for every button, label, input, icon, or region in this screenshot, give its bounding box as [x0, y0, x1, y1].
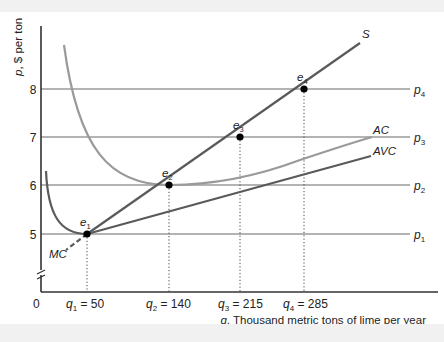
- y-axis-title: p, $ per ton: [12, 18, 24, 77]
- equilibrium-labels: e1 e2 e3 e4: [80, 71, 308, 231]
- x-tick-labels: q1 = 50 q2 = 140 q3 = 215 q4 = 285: [66, 297, 328, 313]
- x-tick-q1: q1 = 50: [66, 297, 104, 313]
- y-tick-labels: 8 7 6 5: [30, 83, 37, 242]
- label-s: S: [362, 28, 370, 40]
- y-tick-5: 5: [30, 228, 37, 242]
- label-mc: MC: [49, 248, 68, 260]
- x-tick-q3: q3 = 215: [218, 297, 263, 313]
- label-ac: AC: [372, 124, 390, 136]
- equilibrium-points: [83, 85, 307, 237]
- label-p2: p2: [413, 179, 426, 195]
- axis-break-icon: [37, 270, 45, 279]
- point-e4: [300, 85, 307, 92]
- supply-curve: [87, 43, 360, 234]
- quantity-drop-lines: [87, 89, 304, 292]
- point-e3: [236, 133, 243, 140]
- mc-dashed-extension: [66, 234, 87, 250]
- axes: [41, 26, 438, 292]
- chart-panel: 8 7 6 5 p, $ per ton 0 q1 = 50 q2 = 140 …: [0, 12, 444, 324]
- label-avc: AVC: [372, 145, 397, 157]
- label-p4: p4: [413, 83, 426, 99]
- y-axis-title-rest: , $ per ton: [12, 18, 24, 70]
- label-e1: e1: [80, 216, 91, 231]
- x-tick-q2: q2 = 140: [146, 297, 191, 313]
- point-e2: [165, 181, 172, 188]
- x-axis-title: q, Thousand metric tons of lime per year: [220, 314, 426, 324]
- point-e1: [83, 230, 90, 237]
- x-origin-label: 0: [33, 297, 40, 311]
- label-p3: p3: [413, 131, 426, 147]
- y-tick-6: 6: [30, 179, 37, 193]
- y-tick-8: 8: [30, 83, 37, 97]
- label-p1: p1: [413, 228, 426, 244]
- chart-svg: 8 7 6 5 p, $ per ton 0 q1 = 50 q2 = 140 …: [0, 12, 444, 324]
- price-line-labels: p4 p3 p2 p1: [413, 83, 426, 244]
- x-tick-q4: q4 = 285: [283, 297, 328, 313]
- avc-curve: [87, 156, 371, 234]
- y-tick-7: 7: [30, 131, 37, 145]
